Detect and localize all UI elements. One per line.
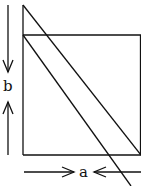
- a-right-arrow-icon: [24, 167, 74, 177]
- a-left-arrow-icon: [94, 167, 141, 177]
- b-up-arrow-icon: [3, 102, 13, 155]
- geometry-diagram: b a: [0, 0, 141, 186]
- b-down-arrow-icon: [3, 5, 13, 72]
- diagonal-lower: [23, 35, 131, 186]
- diagonal-upper: [23, 5, 141, 155]
- label-b: b: [3, 77, 13, 95]
- label-a: a: [79, 163, 88, 181]
